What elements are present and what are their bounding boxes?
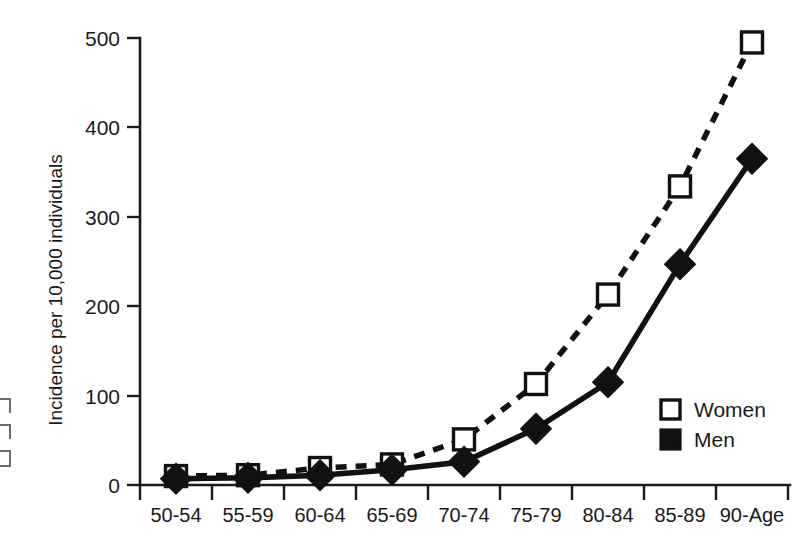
line-chart-svg: Incidence per 10,000 individuals 500 400… bbox=[0, 0, 802, 550]
x-tick-label-90-age: 90-Age bbox=[720, 504, 785, 526]
chart-figure: Incidence per 10,000 individuals 500 400… bbox=[0, 0, 802, 550]
y-axis-tick-labels: 500 400 300 200 100 0 bbox=[85, 27, 120, 497]
x-tick-label-85-89: 85-89 bbox=[654, 504, 705, 526]
y-tick-label-100: 100 bbox=[85, 385, 120, 408]
x-tick-label-65-69: 65-69 bbox=[366, 504, 417, 526]
data-point-women-85-89 bbox=[670, 176, 691, 197]
legend-label-men: Men bbox=[694, 428, 735, 451]
chart-legend: Women Men bbox=[661, 398, 766, 451]
y-tick-label-0: 0 bbox=[108, 474, 120, 497]
y-tick-label-400: 400 bbox=[85, 116, 120, 139]
data-point-men-75-79 bbox=[522, 415, 550, 443]
x-tick-label-50-54: 50-54 bbox=[150, 504, 201, 526]
legend-marker-women bbox=[661, 400, 680, 419]
y-tick-label-300: 300 bbox=[85, 206, 120, 229]
x-axis-tick-labels: 50-54 55-59 60-64 65-69 70-74 75-79 80-8… bbox=[150, 504, 784, 526]
y-tick-label-500: 500 bbox=[85, 27, 120, 50]
data-point-women-75-79 bbox=[526, 373, 547, 394]
series-layer bbox=[162, 32, 766, 493]
data-point-men-70-74 bbox=[450, 448, 478, 476]
y-tick-label-200: 200 bbox=[85, 295, 120, 318]
y-axis-ticks bbox=[127, 38, 140, 485]
x-tick-label-70-74: 70-74 bbox=[438, 504, 489, 526]
x-tick-label-55-59: 55-59 bbox=[222, 504, 273, 526]
y-axis-label: Incidence per 10,000 individuals bbox=[45, 154, 66, 425]
x-tick-label-80-84: 80-84 bbox=[582, 504, 633, 526]
x-tick-label-75-79: 75-79 bbox=[510, 504, 561, 526]
legend-marker-men bbox=[661, 430, 680, 449]
data-point-men-80-84 bbox=[594, 368, 622, 396]
data-point-women-90-Age bbox=[742, 32, 763, 53]
x-tick-label-60-64: 60-64 bbox=[294, 504, 345, 526]
data-point-women-80-84 bbox=[598, 284, 619, 305]
legend-label-women: Women bbox=[694, 398, 766, 421]
